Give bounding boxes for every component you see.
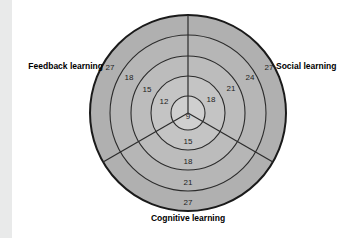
social-ring-label-4: 27: [265, 63, 274, 72]
feedback-ring-label-1: 12: [160, 97, 169, 106]
screenshot-page: 9 12 15 18 27 18 21 24 27 15 18 21 27 Fe…: [0, 0, 363, 238]
feedback-ring-label-3: 18: [125, 73, 134, 82]
cognitive-ring-label-2: 18: [184, 157, 193, 166]
feedback-ring-label-4: 27: [106, 63, 115, 72]
center-value-label: 9: [186, 112, 191, 121]
social-ring-label-3: 24: [246, 73, 255, 82]
cognitive-ring-label-4: 27: [184, 198, 193, 207]
axis-label-feedback-learning: Feedback learning: [28, 61, 103, 71]
axis-label-social-learning: Social learning: [276, 61, 336, 71]
cognitive-ring-label-3: 21: [184, 178, 193, 187]
left-border-strip: [0, 0, 12, 238]
social-ring-label-2: 21: [227, 84, 236, 93]
axis-label-cognitive-learning: Cognitive learning: [151, 213, 225, 223]
feedback-ring-label-2: 15: [143, 85, 152, 94]
radar-target-chart: 9 12 15 18 27 18 21 24 27 15 18 21 27 Fe…: [12, 0, 363, 238]
cognitive-ring-label-1: 15: [184, 137, 193, 146]
figure-canvas: 9 12 15 18 27 18 21 24 27 15 18 21 27 Fe…: [12, 0, 363, 238]
social-ring-label-1: 18: [207, 95, 216, 104]
